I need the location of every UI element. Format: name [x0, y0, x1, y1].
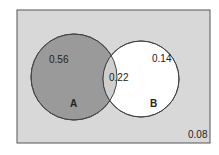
- set-b-only-value: 0.14: [152, 53, 172, 64]
- outside-value: 0.08: [188, 129, 208, 140]
- set-b-label: B: [150, 98, 157, 109]
- set-a-label: A: [70, 98, 77, 109]
- intersection-value: 0.22: [109, 72, 129, 83]
- set-a-only-value: 0.56: [49, 54, 69, 65]
- venn-diagram: 0.56 0.22 0.14 A B 0.08: [0, 0, 219, 155]
